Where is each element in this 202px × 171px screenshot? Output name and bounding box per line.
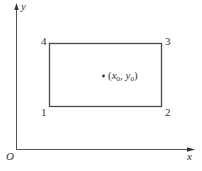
diagram-svg [0,0,202,171]
corner-label-1: 1 [41,107,47,118]
y-axis-label: y [21,1,26,12]
corner-label-3: 3 [165,36,171,47]
corner-label-2: 2 [165,107,171,118]
diagram-canvas: y x O 4 3 1 2 (x0, y0) [0,0,202,171]
point-dot-icon [102,75,105,78]
point-label-close: ) [134,69,138,81]
origin-label: O [6,151,14,162]
x-axis-label: x [187,151,192,162]
corner-label-4: 4 [41,36,47,47]
y-axis-arrow-icon [14,3,18,10]
point-label: (x0, y0) [108,70,138,83]
rectangle-element [50,44,162,107]
